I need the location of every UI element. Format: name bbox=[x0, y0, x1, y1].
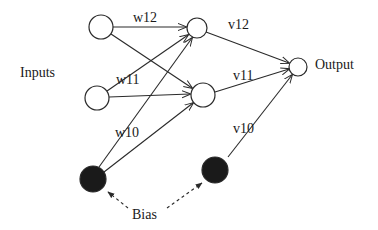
inputs-label: Inputs bbox=[20, 65, 55, 80]
weight-label-v11: v11 bbox=[233, 68, 253, 83]
bias-node-input bbox=[80, 166, 106, 192]
nodes bbox=[80, 15, 307, 192]
hidden-node-1 bbox=[187, 18, 207, 38]
edges-hidden-output bbox=[206, 32, 292, 157]
output-label: Output bbox=[315, 57, 354, 72]
weight-label-v12: v12 bbox=[228, 17, 249, 32]
bias-pointer-right bbox=[167, 183, 202, 208]
bias-pointer-left bbox=[108, 192, 128, 208]
input-node-2 bbox=[85, 86, 109, 110]
input-node-1 bbox=[89, 15, 113, 39]
bias-label: Bias bbox=[132, 207, 157, 222]
weight-label-w10: w10 bbox=[115, 125, 139, 140]
output-node bbox=[289, 58, 307, 76]
edge-bias2-output bbox=[228, 75, 292, 157]
weight-label-v10: v10 bbox=[233, 121, 254, 136]
bias-pointers bbox=[108, 183, 202, 208]
weight-label-w12: w12 bbox=[133, 10, 157, 25]
edge-hidden1-output bbox=[206, 32, 289, 63]
edges-input-hidden bbox=[99, 27, 193, 172]
weight-label-w11: w11 bbox=[116, 72, 140, 87]
neural-network-diagram: Inputs Output Bias w12 w11 w10 v12 v11 v… bbox=[0, 0, 378, 230]
bias-node-hidden bbox=[202, 157, 228, 183]
hidden-node-2 bbox=[191, 83, 215, 107]
